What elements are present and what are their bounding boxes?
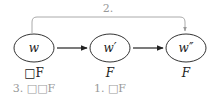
node-label: w [29, 41, 40, 55]
node-w-prime: w′ [90, 34, 130, 62]
node-property: F [105, 66, 115, 80]
node-label: w″ [179, 41, 194, 55]
node-w-double-prime: w″ [166, 34, 206, 62]
node-w: w [14, 34, 54, 62]
node-property: F [181, 66, 191, 80]
edge-w-to-w2: 2. [32, 2, 185, 33]
edge-step-label: 2. [103, 2, 114, 15]
node-label: w′ [104, 41, 117, 55]
modal-logic-diagram: 2. w □F 3. □□F w′ F 1. □F w″ F [0, 0, 212, 99]
node-step: 3. □□F [13, 82, 56, 95]
node-property: □F [24, 66, 44, 80]
node-step: 1. □F [94, 82, 126, 95]
